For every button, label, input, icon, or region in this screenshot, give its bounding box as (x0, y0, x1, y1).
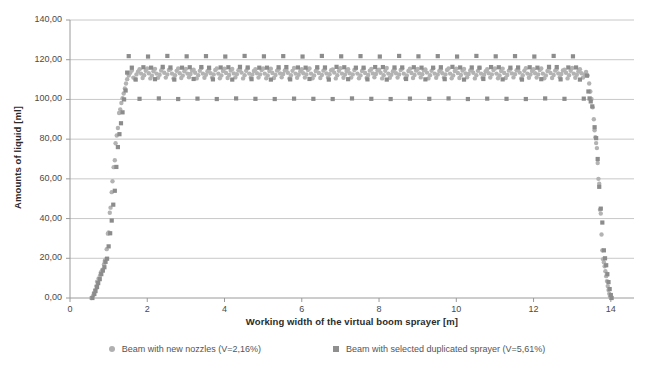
data-point (300, 54, 304, 58)
data-point (552, 54, 556, 58)
data-point (592, 117, 596, 121)
data-point (161, 65, 165, 69)
data-point (215, 97, 219, 101)
plot-area (0, 0, 654, 367)
x-tick-label: 0 (50, 304, 90, 314)
data-point (555, 65, 559, 69)
data-point (331, 97, 335, 101)
data-point (381, 73, 385, 77)
legend-item-duplicated-sprayer[interactable]: Beam with selected duplicated sprayer (V… (333, 344, 545, 354)
data-point (497, 73, 501, 77)
data-point (185, 54, 189, 58)
data-point (130, 66, 134, 70)
data-point (589, 99, 593, 103)
data-point (358, 73, 362, 77)
data-point (428, 73, 432, 77)
data-point (176, 66, 180, 70)
data-point (107, 244, 111, 248)
data-point (451, 73, 455, 77)
chart-legend: Beam with new nozzles (V=2,16%) Beam wit… (0, 338, 654, 360)
data-point (124, 88, 128, 92)
data-point (516, 65, 520, 69)
data-point (108, 231, 112, 235)
data-point (312, 73, 316, 77)
data-point (339, 54, 343, 58)
data-point (351, 72, 355, 76)
data-point (595, 161, 599, 165)
x-axis-title: Working width of the virtual boom spraye… (70, 316, 634, 327)
data-point (381, 65, 385, 69)
legend-label-duplicated-sprayer: Beam with selected duplicated sprayer (V… (346, 344, 545, 354)
data-point (307, 66, 311, 70)
data-point (354, 66, 358, 70)
data-point (199, 65, 203, 69)
data-point (570, 66, 574, 70)
data-point (346, 67, 350, 71)
data-point (335, 73, 339, 77)
data-point (211, 77, 215, 81)
data-point (605, 272, 609, 276)
data-point (450, 65, 454, 69)
data-point (327, 77, 331, 81)
data-point (261, 66, 265, 70)
data-point (338, 66, 342, 70)
data-point (230, 77, 234, 81)
data-point (606, 280, 610, 284)
x-tick-label: 8 (359, 304, 399, 314)
data-point (485, 67, 489, 71)
data-point (544, 73, 548, 77)
data-point (219, 65, 223, 69)
data-point (142, 73, 146, 77)
square-marker-icon (333, 346, 339, 352)
data-point (165, 54, 169, 58)
data-point (273, 97, 277, 101)
data-point (180, 66, 184, 70)
data-point (125, 71, 129, 75)
data-point (462, 77, 466, 81)
data-point (481, 77, 485, 81)
data-point (408, 66, 412, 70)
data-point (288, 77, 292, 81)
data-point (489, 65, 493, 69)
data-point (262, 54, 266, 58)
data-point (96, 281, 100, 285)
data-point (585, 74, 589, 78)
data-point (592, 125, 596, 129)
data-point (311, 97, 315, 101)
data-point (419, 66, 423, 70)
data-point (249, 77, 253, 81)
data-point (195, 97, 199, 101)
legend-item-new-nozzles[interactable]: Beam with new nozzles (V=2,16%) (109, 344, 261, 354)
data-point (192, 77, 196, 81)
data-point (400, 65, 404, 69)
data-point (597, 185, 601, 189)
data-point (296, 65, 300, 69)
data-point (431, 66, 435, 70)
data-point (334, 65, 338, 69)
data-point (389, 97, 393, 101)
data-point (269, 66, 273, 70)
data-point (459, 73, 463, 77)
data-point (494, 54, 498, 58)
data-point (470, 65, 474, 69)
data-point (119, 121, 123, 125)
data-point (304, 72, 308, 76)
data-point (219, 73, 223, 77)
data-point (90, 296, 94, 300)
data-point (153, 77, 157, 81)
data-point (108, 211, 112, 215)
data-point (277, 65, 281, 69)
data-point (243, 54, 247, 58)
data-point (397, 72, 401, 76)
data-point (327, 72, 331, 76)
data-point (168, 65, 172, 69)
data-point (446, 66, 450, 70)
data-point (586, 89, 590, 93)
data-point (474, 73, 478, 77)
data-point (300, 67, 304, 71)
data-point (562, 97, 566, 101)
data-point (124, 81, 128, 85)
data-point (289, 73, 293, 77)
data-point (416, 54, 420, 58)
data-point (524, 97, 528, 101)
